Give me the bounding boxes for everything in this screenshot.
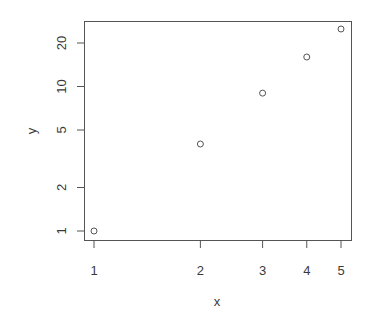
data-point — [197, 141, 203, 147]
data-point — [260, 90, 266, 96]
y-tick-label: 5 — [54, 126, 69, 133]
y-tick-label: 20 — [54, 36, 69, 50]
plot-box — [85, 22, 352, 241]
x-tick-label: 2 — [197, 263, 204, 278]
x-axis: 12345 — [90, 241, 344, 279]
y-tick-label: 1 — [54, 227, 69, 234]
y-axis-label: y — [24, 127, 39, 134]
y-axis: 1251020 — [54, 36, 85, 235]
data-point — [91, 228, 97, 234]
x-tick-label: 1 — [90, 263, 97, 278]
data-points — [91, 26, 344, 234]
x-tick-label: 5 — [337, 263, 344, 278]
data-point — [338, 26, 344, 32]
x-axis-label: x — [214, 294, 221, 309]
y-tick-label: 10 — [54, 79, 69, 93]
scatter-plot: 12345 1251020 x y — [0, 0, 371, 329]
y-tick-label: 2 — [54, 184, 69, 191]
x-tick-label: 3 — [259, 263, 266, 278]
data-point — [304, 54, 310, 60]
x-tick-label: 4 — [303, 263, 310, 278]
